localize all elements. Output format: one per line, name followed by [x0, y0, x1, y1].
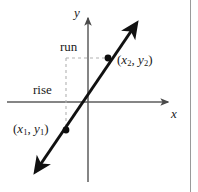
- plotted-line: [36, 24, 136, 171]
- y-axis-label: y: [74, 6, 80, 19]
- slope-figure: y x run rise (x2, y2) (x1, y1): [0, 0, 198, 192]
- point-1-label: (x1, y1): [13, 122, 49, 136]
- point-2-close-paren: ): [148, 52, 152, 67]
- figure-canvas: [0, 0, 198, 192]
- right-edge-rule: [190, 0, 191, 192]
- point-marker-2: [105, 55, 112, 62]
- point-marker-1: [63, 127, 70, 134]
- rise-label: rise: [33, 83, 52, 96]
- point-1-close-paren: ): [44, 121, 48, 136]
- point-2-label: (x2, y2): [117, 53, 153, 67]
- point-2-y-var: y: [138, 52, 144, 67]
- point-1-y-var: y: [34, 121, 40, 136]
- run-label: run: [60, 40, 77, 53]
- x-axis-label: x: [171, 107, 177, 120]
